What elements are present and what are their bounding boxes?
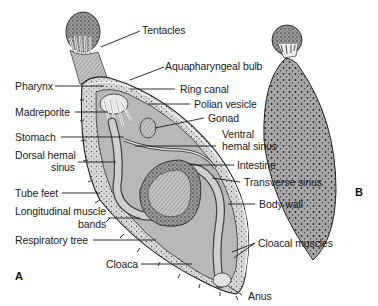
label-body-wall: Body wall bbox=[259, 199, 303, 210]
label-tube-feet: Tube feet bbox=[15, 188, 58, 199]
label-stomach: Stomach bbox=[15, 132, 56, 143]
label-anus: Anus bbox=[248, 291, 272, 302]
label-dorsal-hemal-sinus-line1: Dorsal hemal bbox=[15, 150, 76, 161]
label-dorsal-hemal-sinus-line2: sinus bbox=[51, 162, 75, 173]
panel-label-b: B bbox=[355, 186, 363, 198]
label-pharynx: Pharynx bbox=[15, 81, 53, 92]
label-aquapharyngeal-bulb: Aquapharyngeal bulb bbox=[165, 61, 262, 72]
label-longitudinal-muscle-line1: Longitudinal muscle bbox=[15, 206, 106, 217]
label-ventral-hemal-sinus-line2: hemal sinus bbox=[222, 141, 277, 152]
label-gonad: Gonad bbox=[208, 113, 239, 124]
label-tentacles: Tentacles bbox=[142, 25, 185, 36]
label-cloacal-muscles: Cloacal muscles bbox=[258, 238, 333, 249]
label-transverse-sinus: Transverse sinus bbox=[244, 177, 322, 188]
panel-a-drawing bbox=[66, 12, 249, 300]
panel-label-a: A bbox=[15, 270, 23, 282]
label-respiratory-tree: Respiratory tree bbox=[15, 235, 88, 246]
label-polian-vesicle: Polian vesicle bbox=[194, 99, 257, 110]
label-ventral-hemal-sinus-line1: Ventral bbox=[222, 129, 254, 140]
sea-cucumber-anatomy-figure: Tentacles Aquapharyngeal bulb Pharynx Ri… bbox=[0, 0, 378, 306]
label-longitudinal-muscle-line2: bands bbox=[78, 219, 106, 230]
label-ring-canal: Ring canal bbox=[180, 84, 229, 95]
label-intestine: Intestine bbox=[237, 160, 276, 171]
label-madreporite: Madreporite bbox=[15, 107, 70, 118]
label-cloaca: Cloaca bbox=[106, 259, 138, 270]
